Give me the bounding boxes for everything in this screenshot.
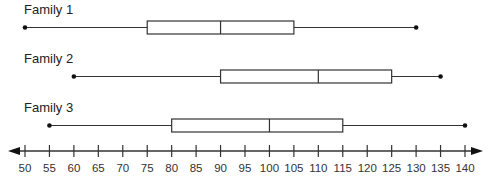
tick-label: 120	[358, 162, 377, 174]
series-label: Family 1	[24, 2, 73, 17]
tick-label: 80	[165, 162, 178, 174]
min-point	[47, 123, 52, 128]
right-arrow-icon	[471, 147, 483, 155]
tick-label: 50	[19, 162, 32, 174]
max-point	[463, 123, 468, 128]
iqr-box	[172, 119, 343, 132]
tick-label: 135	[431, 162, 450, 174]
iqr-box	[221, 70, 392, 83]
box-plots: Family 1Family 2Family 3	[23, 2, 468, 132]
box-plot-3: Family 3	[24, 100, 467, 132]
tick-label: 60	[67, 162, 80, 174]
min-point	[72, 74, 77, 79]
series-label: Family 3	[24, 100, 73, 115]
box-plot-2: Family 2	[24, 51, 443, 83]
tick-label: 130	[407, 162, 426, 174]
max-point	[438, 74, 443, 79]
series-label: Family 2	[24, 51, 73, 66]
tick-label: 70	[116, 162, 129, 174]
tick-label: 110	[309, 162, 327, 174]
box-plot-1: Family 1	[23, 2, 419, 34]
tick-label: 100	[260, 162, 279, 174]
tick-label: 125	[382, 162, 401, 174]
min-point	[23, 25, 28, 30]
tick-label: 75	[141, 162, 154, 174]
tick-label: 95	[239, 162, 252, 174]
tick-label: 140	[455, 162, 474, 174]
max-point	[414, 25, 419, 30]
box-plot-chart: Family 1Family 2Family 3 505560657075808…	[0, 0, 490, 182]
tick-label: 105	[284, 162, 303, 174]
tick-label: 115	[334, 162, 352, 174]
tick-label: 65	[92, 162, 105, 174]
left-arrow-icon	[8, 147, 20, 155]
tick-label: 55	[43, 162, 56, 174]
tick-label: 90	[214, 162, 227, 174]
number-line-axis: 5055606570758085909510010511011512012513…	[8, 145, 483, 174]
tick-label: 85	[190, 162, 203, 174]
